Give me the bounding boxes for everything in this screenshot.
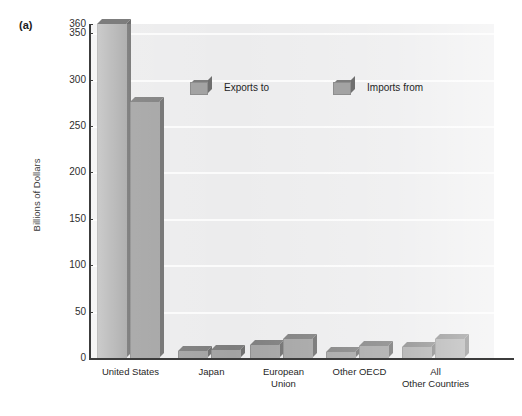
bar	[435, 339, 464, 358]
y-tick-label: 50	[46, 306, 86, 317]
y-axis-line	[89, 24, 91, 360]
bar-front-face	[250, 345, 280, 358]
figure-panel-a: (a) Billions of Dollars 3603503002502001…	[0, 0, 522, 416]
bar	[211, 350, 240, 358]
y-tickmark	[89, 24, 93, 25]
bar-front-face	[178, 351, 208, 358]
y-tick-label: 200	[46, 166, 86, 177]
y-axis-tick-labels: 360350300250200150100500	[42, 0, 86, 416]
bar-front-face	[211, 350, 241, 358]
bar-front-face	[402, 347, 432, 358]
bar-front-face	[359, 346, 389, 358]
y-tick-label: 250	[46, 120, 86, 131]
legend-entry-imports: Imports from	[331, 80, 423, 95]
y-tickmark	[89, 358, 93, 359]
bar	[250, 345, 279, 358]
bar	[359, 346, 388, 358]
legend-entry-exports: Exports to	[188, 80, 269, 95]
bar	[178, 351, 207, 358]
bar	[283, 339, 312, 358]
y-axis-title: Billions of Dollars	[22, 0, 33, 120]
bar-front-face	[283, 339, 313, 358]
cube-swatch-icon	[190, 80, 212, 95]
plot-area	[91, 24, 494, 359]
y-tick-label: 150	[46, 213, 86, 224]
y-axis-title-text: Billions of Dollars	[31, 115, 42, 275]
bar-front-face	[435, 339, 465, 358]
y-tick-label: 0	[46, 352, 86, 363]
legend-label-imports: Imports from	[367, 82, 423, 93]
legend-label-exports: Exports to	[224, 82, 269, 93]
chart-legend: Exports to Imports from	[188, 80, 423, 95]
x-category-label: United States	[86, 366, 176, 378]
y-tickmark	[89, 126, 93, 127]
y-tick-label: 300	[46, 74, 86, 85]
bar-front-face	[97, 24, 127, 358]
y-tickmark	[89, 33, 93, 34]
bar	[97, 24, 126, 358]
gridline	[91, 33, 494, 35]
bar-front-face	[130, 102, 160, 358]
bar	[402, 347, 431, 358]
y-tickmark	[89, 172, 93, 173]
y-tick-label: 350	[46, 27, 86, 38]
bar	[130, 102, 159, 358]
y-tickmark	[89, 312, 93, 313]
y-tickmark	[89, 265, 93, 266]
y-tickmark	[89, 80, 93, 81]
cube-swatch-icon	[333, 80, 355, 95]
x-axis-line	[89, 358, 514, 360]
x-category-label: AllOther Countries	[391, 366, 481, 390]
y-tickmark	[89, 219, 93, 220]
y-tick-label: 100	[46, 259, 86, 270]
